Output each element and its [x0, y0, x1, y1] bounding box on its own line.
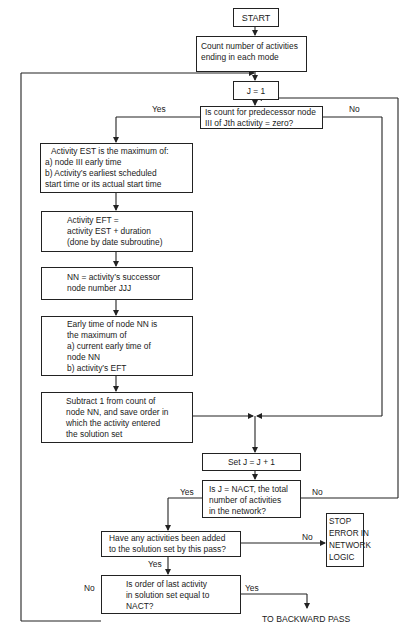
early-line-2: the maximum of: [67, 330, 188, 341]
subtract-line-4: the solution set: [66, 429, 188, 440]
est-line-1: Activity EST is the maximum of:: [45, 146, 188, 157]
j-init-box: J = 1: [233, 81, 279, 100]
no-label: No: [302, 532, 313, 542]
count-line-1: Count number of activities: [201, 41, 302, 52]
est-line-4: start time or its actual start time: [45, 179, 188, 190]
eft-box: Activity EFT = activity EST + duration (…: [41, 211, 193, 252]
no-label: No: [84, 583, 95, 593]
decision-pred-line-2: III of Jth activity = zero?: [205, 118, 318, 129]
set-j-box: Set J = J + 1: [202, 453, 301, 471]
order-line-1: Is order of last activity: [126, 579, 236, 590]
nn-line-1: NN = activity’s successor: [67, 272, 188, 283]
early-time-box: Early time of node NN is the maximum of …: [41, 316, 193, 376]
early-line-4: node NN: [67, 352, 188, 363]
nn-line-2: node number JJJ: [67, 283, 188, 294]
stop-line-4: LOGIC: [329, 552, 361, 564]
subtract-line-1: Subtract 1 from count of: [66, 396, 188, 407]
early-line-1: Early time of node NN is: [67, 319, 188, 330]
no-label: No: [349, 104, 360, 114]
eft-line-3: (done by date subroutine): [67, 237, 188, 248]
early-line-3: a) current early time of: [67, 341, 188, 352]
decision-pred-line-1: Is count for predecessor node: [205, 107, 318, 118]
stop-line-2: ERROR IN: [329, 528, 361, 540]
stop-line-1: STOP: [329, 516, 361, 528]
stop-error-box: STOP ERROR IN NETWORK LOGIC: [326, 513, 364, 567]
count-activities-box: Count number of activities ending in eac…: [196, 36, 307, 72]
nn-successor-box: NN = activity’s successor node number JJ…: [41, 267, 193, 300]
early-line-5: b) activity’s EFT: [67, 363, 188, 374]
stop-line-3: NETWORK: [329, 540, 361, 552]
yes-label: Yes: [152, 104, 166, 114]
yes-label: Yes: [180, 487, 194, 497]
subtract-line-3: which the activity entered: [66, 418, 188, 429]
est-line-2: a) node III early time: [45, 157, 188, 168]
nact-line-1: Is J = NACT, the total: [209, 484, 296, 495]
decision-j-nact: Is J = NACT, the total number of activit…: [202, 480, 301, 518]
order-line-3: NACT?: [126, 601, 236, 612]
count-line-2: ending in each mode: [201, 52, 302, 63]
nact-line-3: in the network?: [209, 506, 296, 517]
yes-label: Yes: [245, 583, 259, 593]
yes-label: Yes: [148, 559, 162, 569]
nact-line-2: number of activities: [209, 495, 296, 506]
eft-line-1: Activity EFT =: [67, 215, 188, 226]
start-terminal: START: [233, 8, 279, 27]
subtract-line-2: node NN, and save order in: [66, 407, 188, 418]
eft-line-2: activity EST + duration: [67, 226, 188, 237]
added-line-1: Have any activities been added: [109, 533, 236, 544]
j-init-label: J = 1: [247, 86, 265, 96]
est-line-3: b) Activity’s earliest scheduled: [45, 168, 188, 179]
est-box: Activity EST is the maximum of: a) node …: [40, 143, 193, 193]
decision-predecessor-count: Is count for predecessor node III of Jth…: [200, 106, 323, 129]
subtract-count-box: Subtract 1 from count of node NN, and sa…: [41, 392, 193, 443]
decision-order-equals-nact: Is order of last activity in solution se…: [101, 575, 241, 614]
set-j-label: Set J = J + 1: [228, 457, 275, 467]
start-label: START: [242, 13, 271, 23]
order-line-2: in solution set equal to: [126, 590, 236, 601]
no-label: No: [312, 487, 323, 497]
decision-activities-added: Have any activities been added to the so…: [101, 531, 241, 557]
backward-pass-label: TO BACKWARD PASS: [262, 614, 350, 624]
added-line-2: to the solution set by this pass?: [109, 544, 236, 555]
